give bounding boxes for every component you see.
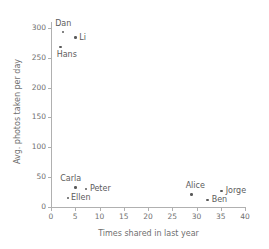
y-tick-label-text: 100 — [20, 143, 46, 151]
x-tick-label: 35 — [209, 212, 233, 221]
y-tick-label-text: 250 — [20, 54, 46, 62]
x-tick-label: 10 — [88, 212, 112, 221]
x-tick-label: 30 — [185, 212, 209, 221]
data-point-label: Jorge — [226, 186, 246, 195]
y-tick-label-text: 200 — [20, 84, 46, 92]
x-tick-mark — [148, 208, 149, 211]
data-point-label: Ben — [212, 195, 227, 204]
y-tick-label-text: 0 — [20, 203, 46, 211]
x-tick-label: 20 — [136, 212, 160, 221]
x-tick-label: 40 — [233, 212, 257, 221]
data-point-label: Hans — [57, 50, 77, 59]
data-point-marker — [74, 36, 77, 39]
y-tick-label: 300 — [16, 24, 46, 32]
data-point-marker — [220, 190, 223, 193]
y-tick-label-text: 300 — [20, 24, 46, 32]
x-tick-mark — [221, 208, 222, 211]
x-tick-label: 0 — [39, 212, 63, 221]
data-point-marker — [190, 193, 193, 196]
data-point-label: Li — [79, 33, 86, 42]
data-point-label: Alice — [186, 181, 205, 190]
x-tick-mark — [124, 208, 125, 211]
x-tick-mark — [172, 208, 173, 211]
x-tick-mark — [100, 208, 101, 211]
data-point-label: Carla — [60, 174, 81, 183]
data-point-label: Ellen — [71, 193, 91, 202]
y-tick-label: 0 — [16, 203, 46, 211]
y-axis-label: Avg. photos taken per day — [13, 42, 22, 182]
x-tick-label: 15 — [112, 212, 136, 221]
scatter-chart-figure: 050100150200250300 0510152025303540 Time… — [0, 0, 269, 249]
x-tick-label: 25 — [160, 212, 184, 221]
x-tick-mark — [197, 208, 198, 211]
x-tick-mark — [51, 208, 52, 211]
y-tick-label-text: 50 — [20, 173, 46, 181]
x-tick-mark — [75, 208, 76, 211]
data-point-marker — [74, 186, 77, 189]
data-point-label: Peter — [90, 184, 111, 193]
data-point-marker — [206, 199, 209, 202]
x-tick-label: 5 — [63, 212, 87, 221]
y-tick-label-text: 150 — [20, 113, 46, 121]
data-point-label: Dan — [55, 19, 71, 28]
x-tick-mark — [245, 208, 246, 211]
x-axis-label: Times shared in last year — [51, 229, 246, 238]
